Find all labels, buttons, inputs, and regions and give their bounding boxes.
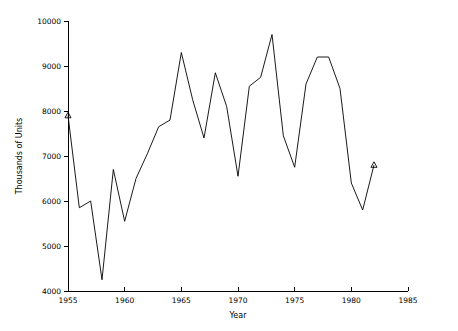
x-tick-label: 1970 xyxy=(228,296,247,305)
line-chart: 4000500060007000800090001000019551960196… xyxy=(0,0,458,331)
x-tick-label: 1975 xyxy=(285,296,304,305)
y-tick-label: 9000 xyxy=(42,62,61,71)
x-tick-label: 1960 xyxy=(115,296,134,305)
x-tick-label: 1985 xyxy=(398,296,417,305)
x-tick-label: 1980 xyxy=(342,296,361,305)
endpoint-markers-group xyxy=(65,112,377,167)
tick-marks-group xyxy=(64,21,408,291)
y-tick-label: 5000 xyxy=(42,242,61,251)
axes-group xyxy=(68,21,408,291)
y-axis-title: Thousands of Units xyxy=(15,118,24,196)
x-tick-label: 1965 xyxy=(172,296,191,305)
tick-labels-group: 4000500060007000800090001000019551960196… xyxy=(37,17,418,305)
y-tick-label: 7000 xyxy=(42,152,61,161)
y-tick-label: 6000 xyxy=(42,197,61,206)
y-tick-label: 4000 xyxy=(42,287,61,296)
chart-canvas: 4000500060007000800090001000019551960196… xyxy=(0,0,458,331)
data-line-units xyxy=(68,35,374,280)
y-tick-label: 8000 xyxy=(42,107,61,116)
y-tick-label: 10000 xyxy=(37,17,61,26)
data-series-group xyxy=(68,35,374,280)
x-tick-label: 1955 xyxy=(58,296,77,305)
x-axis-title: Year xyxy=(229,311,248,320)
